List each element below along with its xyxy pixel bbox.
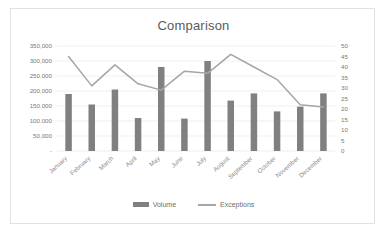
right-axis-tick-label: 10 (341, 126, 348, 133)
category-label: April (124, 155, 138, 168)
chart-plot-area: -50,000100,000150,000200,000250,000300,0… (11, 9, 376, 225)
left-axis-tick-labels: -50,000100,000150,000200,000250,000300,0… (30, 42, 53, 154)
legend-item-label: Volume (153, 201, 176, 208)
category-label: May (148, 154, 162, 168)
bar (112, 90, 119, 152)
bar (228, 101, 235, 151)
bar (65, 94, 72, 151)
bar (204, 61, 211, 151)
legend-item-volume[interactable]: Volume (133, 201, 176, 208)
category-label: March (97, 154, 115, 171)
category-label: August (211, 154, 230, 172)
right-axis-tick-label: 0 (341, 147, 345, 154)
category-label: October (256, 155, 277, 175)
category-axis-labels: JanuaryFebruaryMarchAprilMayJuneJulyAugu… (47, 154, 323, 180)
bar (251, 93, 257, 151)
category-label: December (297, 155, 323, 179)
category-label: June (169, 154, 184, 169)
bar (297, 107, 304, 151)
line-swatch-icon (198, 204, 216, 206)
left-axis-tick-label: 50,000 (33, 132, 52, 139)
bar (274, 111, 281, 151)
left-axis-tick-label: 200,000 (30, 87, 53, 94)
category-label: January (47, 154, 69, 175)
right-axis-tick-labels: 05101520253035404550 (341, 42, 348, 154)
bar-swatch-icon (133, 202, 149, 207)
right-axis-tick-label: 35 (341, 74, 348, 81)
category-label: February (68, 154, 92, 176)
chart-legend: Volume Exceptions (11, 201, 376, 208)
right-axis-tick-label: 15 (341, 116, 348, 123)
bar (320, 93, 327, 151)
right-axis-tick-label: 40 (341, 63, 348, 70)
right-axis-tick-label: 45 (341, 53, 348, 60)
gridlines (57, 46, 335, 151)
left-axis-tick-label: 350,000 (30, 42, 53, 49)
legend-item-label: Exceptions (220, 201, 254, 208)
category-label: November (274, 155, 300, 179)
left-axis-tick-label: 300,000 (30, 57, 53, 64)
right-axis-tick-label: 5 (341, 137, 345, 144)
legend-item-exceptions[interactable]: Exceptions (198, 201, 254, 208)
line-series-exceptions (69, 54, 324, 107)
left-axis-tick-label: 250,000 (30, 72, 53, 79)
left-axis-tick-label: 100,000 (30, 117, 53, 124)
category-label: September (226, 155, 253, 180)
chart-svg: -50,000100,000150,000200,000250,000300,0… (11, 9, 376, 225)
bar (181, 119, 188, 151)
bar (135, 118, 142, 151)
right-axis-tick-label: 50 (341, 42, 348, 49)
left-axis-tick-label: - (50, 147, 52, 154)
line-path (69, 54, 324, 107)
bar (89, 105, 96, 152)
left-axis-tick-label: 150,000 (30, 102, 53, 109)
category-label: July (194, 154, 208, 167)
right-axis-tick-label: 25 (341, 95, 348, 102)
right-axis-tick-label: 20 (341, 105, 348, 112)
right-axis-tick-label: 30 (341, 84, 348, 91)
bar (158, 67, 165, 151)
chart-card: Comparison -50,000100,000150,000200,0002… (10, 8, 375, 224)
